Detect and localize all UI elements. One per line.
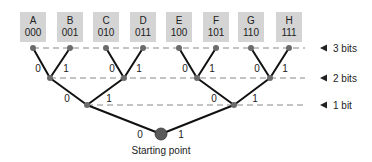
leaf-node xyxy=(213,45,219,51)
starting-point-caption: Starting point xyxy=(132,145,191,156)
leaf-box-d: D 011 xyxy=(130,12,156,42)
edge-label-0: 0 xyxy=(137,129,143,140)
tree-edges xyxy=(33,48,289,134)
leaf-node xyxy=(140,45,146,51)
leaf-node xyxy=(248,45,254,51)
level2-node xyxy=(267,75,273,81)
edge-label-1: 1 xyxy=(282,63,288,74)
leaf-node xyxy=(286,45,292,51)
triangle-marker-icon xyxy=(320,45,327,52)
level-label-3bits: 3 bits xyxy=(333,43,357,54)
edge-label-0: 0 xyxy=(254,63,260,74)
leaf-letter: C xyxy=(102,15,109,26)
edge-label-0: 0 xyxy=(109,63,115,74)
leaf-node xyxy=(30,45,36,51)
leaf-code: 011 xyxy=(135,27,151,38)
edge-label-1: 1 xyxy=(178,129,184,140)
leaf-box-f: F 101 xyxy=(203,12,229,42)
edge-label-1: 1 xyxy=(63,63,69,74)
leaf-code: 000 xyxy=(25,27,42,38)
leaf-code: 001 xyxy=(62,27,79,38)
leaf-code: 101 xyxy=(208,27,225,38)
leaf-letter: A xyxy=(30,15,37,26)
triangle-marker-icon xyxy=(320,75,327,82)
leaf-node xyxy=(103,45,109,51)
leaf-box-g: G 110 xyxy=(238,12,264,42)
level2-node xyxy=(47,75,53,81)
leaf-letter: D xyxy=(139,15,146,26)
level-label-1bit: 1 bit xyxy=(333,100,352,111)
edge-label-1: 1 xyxy=(209,63,215,74)
edge-label-0: 0 xyxy=(35,63,41,74)
edge-label-1: 1 xyxy=(252,93,258,104)
level2-node xyxy=(194,75,200,81)
leaf-box-e: E 100 xyxy=(166,12,192,42)
root-node xyxy=(155,128,167,140)
leaf-box-c: C 010 xyxy=(93,12,119,42)
leaf-code: 111 xyxy=(281,27,297,38)
leaf-box-h: H 111 xyxy=(276,12,302,42)
leaf-letter: G xyxy=(247,15,255,26)
level-markers: 3 bits 2 bits 1 bit xyxy=(320,43,357,111)
level2-node xyxy=(121,75,127,81)
leaf-node xyxy=(176,45,182,51)
leaf-code: 110 xyxy=(243,27,259,38)
edge-label-0: 0 xyxy=(64,93,70,104)
leaf-code: 010 xyxy=(98,27,115,38)
binary-tree-diagram: A 000 B 001 C 010 D 011 E 100 F 101 xyxy=(0,0,372,162)
leaf-boxes: A 000 B 001 C 010 D 011 E 100 F 101 xyxy=(20,12,302,42)
leaf-node xyxy=(67,45,73,51)
leaf-code: 100 xyxy=(171,27,188,38)
edge-label-1: 1 xyxy=(106,93,112,104)
leaf-box-b: B 001 xyxy=(57,12,83,42)
level-label-2bits: 2 bits xyxy=(333,73,357,84)
level1-node xyxy=(231,102,237,108)
edge-label-0: 0 xyxy=(182,63,188,74)
leaf-box-a: A 000 xyxy=(20,12,46,42)
edge-label-1: 1 xyxy=(136,63,142,74)
edge-label-0: 0 xyxy=(211,93,217,104)
level1-node xyxy=(84,102,90,108)
leaf-letter: H xyxy=(285,15,292,26)
triangle-marker-icon xyxy=(320,102,327,109)
leaf-letter: F xyxy=(213,15,219,26)
leaf-letter: B xyxy=(67,15,74,26)
leaf-letter: E xyxy=(176,15,183,26)
